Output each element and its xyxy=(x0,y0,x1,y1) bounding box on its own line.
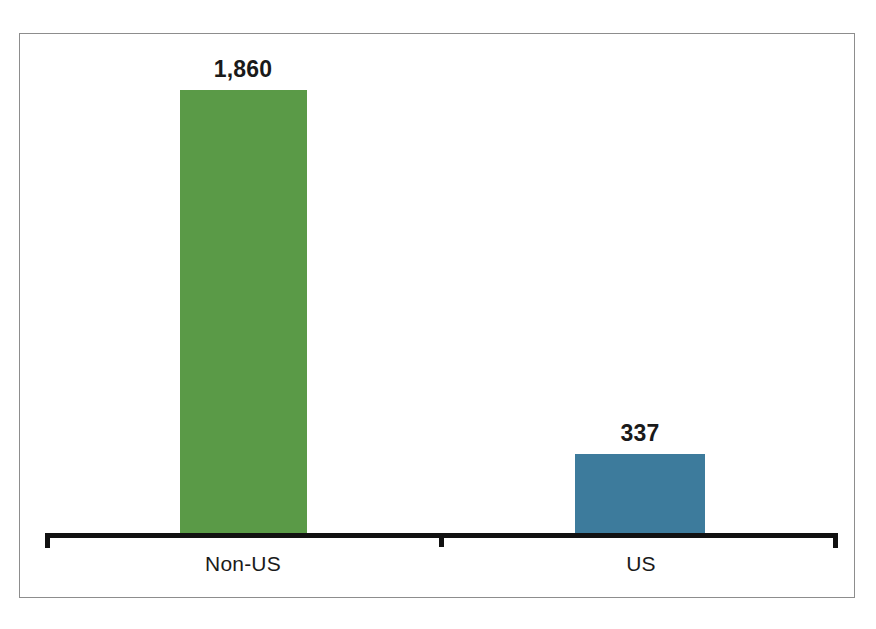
axis-tick-center xyxy=(439,536,444,547)
plot-area: 1,860 337 Non-US US xyxy=(0,0,876,629)
bar-non-us[interactable] xyxy=(180,90,307,534)
axis-tick-right xyxy=(833,533,838,548)
chart-canvas: 1,860 337 Non-US US xyxy=(0,0,876,629)
axis-tick-left xyxy=(45,533,50,548)
bar-value-label-non-us: 1,860 xyxy=(155,56,331,83)
category-label-non-us: Non-US xyxy=(152,552,334,576)
bar-us[interactable] xyxy=(575,454,705,534)
category-label-us: US xyxy=(552,552,730,576)
bar-value-label-us: 337 xyxy=(555,420,725,447)
